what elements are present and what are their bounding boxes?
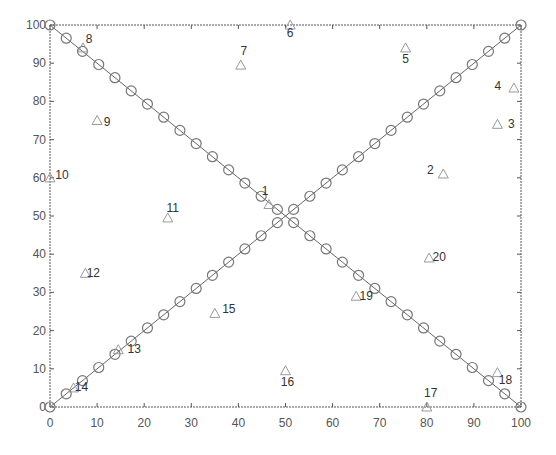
- x-tick-label: 100: [511, 416, 531, 430]
- point-label: 15: [222, 302, 236, 316]
- x-tick-label: 30: [185, 416, 199, 430]
- point-label: 14: [75, 380, 89, 394]
- point-label: 10: [55, 168, 69, 182]
- x-tick-label: 40: [232, 416, 246, 430]
- x-tick-label: 50: [279, 416, 293, 430]
- point-label: 13: [128, 342, 142, 356]
- x-tick-label: 60: [326, 416, 340, 430]
- x-tick-label: 70: [373, 416, 387, 430]
- y-tick-label: 50: [33, 209, 47, 223]
- scatter-chart: 0102030405060708090100010203040506070809…: [0, 0, 556, 455]
- point-label: 19: [359, 289, 373, 303]
- x-tick-label: 10: [90, 416, 104, 430]
- point-label: 3: [508, 117, 515, 131]
- point-label: 17: [424, 386, 438, 400]
- point-label: 11: [167, 201, 180, 215]
- x-tick-label: 90: [467, 416, 481, 430]
- point-label: 2: [427, 163, 434, 177]
- point-label: 8: [86, 32, 93, 46]
- x-tick-label: 0: [47, 416, 54, 430]
- point-label: 18: [499, 373, 513, 387]
- y-tick-label: 20: [33, 324, 47, 338]
- point-label: 20: [432, 250, 446, 264]
- y-tick-label: 80: [33, 94, 47, 108]
- point-label: 6: [287, 26, 294, 40]
- y-tick-label: 40: [33, 247, 47, 261]
- y-tick-label: 60: [33, 171, 47, 185]
- point-label: 9: [104, 115, 111, 129]
- y-tick-label: 70: [33, 133, 47, 147]
- y-tick-label: 30: [33, 285, 47, 299]
- point-label: 5: [402, 52, 409, 66]
- x-tick-label: 80: [420, 416, 434, 430]
- x-tick-label: 20: [138, 416, 152, 430]
- point-label: 4: [495, 79, 502, 93]
- y-tick-label: 100: [26, 18, 46, 32]
- y-tick-label: 90: [33, 56, 47, 70]
- point-label: 1: [262, 184, 269, 198]
- point-label: 7: [240, 44, 247, 58]
- y-tick-label: 10: [33, 362, 47, 376]
- point-label: 12: [87, 266, 101, 280]
- point-label: 16: [281, 375, 295, 389]
